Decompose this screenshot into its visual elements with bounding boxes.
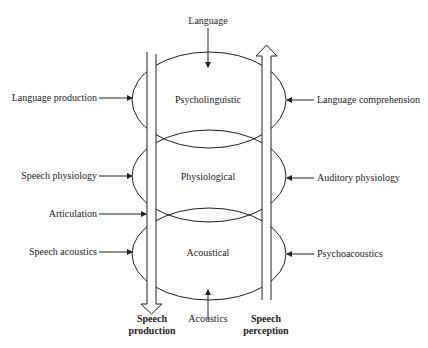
speech-perception-line2: perception <box>243 325 288 337</box>
psycholinguistic-label: Psycholinguistic <box>175 94 241 106</box>
acoustics-label: Acoustics <box>188 313 227 325</box>
speech-physiology-label: Speech physiology <box>21 170 97 182</box>
physiological-label: Physiological <box>181 171 235 183</box>
speech-production-label: Speech production <box>128 313 175 337</box>
language-label: Language <box>188 15 227 27</box>
auditory-physiology-label: Auditory physiology <box>317 172 400 184</box>
language-comprehension-label: Language comprehension <box>317 94 420 106</box>
speech-perception-line1: Speech <box>243 313 288 325</box>
speech-acoustics-label: Speech acoustics <box>29 246 97 258</box>
speech-perception-label: Speech perception <box>243 313 288 337</box>
speech-production-line1: Speech <box>128 313 175 325</box>
speech-production-line2: production <box>128 325 175 337</box>
psychoacoustics-label: Psychoacoustics <box>317 248 383 260</box>
acoustical-label: Acoustical <box>187 247 230 259</box>
language-production-label: Language production <box>12 92 97 104</box>
articulation-label: Articulation <box>49 208 97 220</box>
speech-production-arrow <box>141 52 162 314</box>
speech-perception-arrow <box>256 45 277 305</box>
